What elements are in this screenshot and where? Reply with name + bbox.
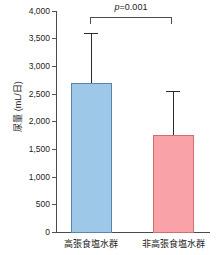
error-bar-stem-category-0 [91, 33, 93, 83]
x-axis-label-category-1: 非高張食塩水群 [128, 237, 218, 250]
p-value-number: =0.001 [120, 2, 148, 12]
y-axis-tick-labels: 4,000 3,500 3,000 2,500 2,000 1,500 1,00… [12, 0, 50, 255]
p-value-annotation: p=0.001 [90, 2, 172, 12]
y-axis-line [56, 11, 57, 233]
bar-category-0 [71, 83, 112, 233]
error-bar-cap-category-1 [166, 91, 180, 93]
y-tick-label-1000: 1,000 [16, 173, 50, 181]
y-tick-label-500: 500 [16, 200, 50, 208]
y-tick-label-2000: 2,000 [16, 117, 50, 125]
y-tick-label-0: 0 [16, 228, 50, 236]
bar-chart-figure: 尿量 (mL/日) 4,000 3,500 3,000 2,500 2,000 … [0, 0, 220, 255]
x-axis-label-category-0: 高張食塩水群 [51, 237, 131, 250]
y-tick-label-3500: 3,500 [16, 34, 50, 42]
error-bar-stem-category-1 [173, 91, 175, 135]
y-tick-label-3000: 3,000 [16, 62, 50, 70]
error-bar-cap-category-0 [84, 33, 98, 35]
y-tick-label-2500: 2,500 [16, 90, 50, 98]
bar-category-1 [153, 135, 194, 233]
significance-bracket [90, 17, 172, 24]
y-tick-label-4000: 4,000 [16, 7, 50, 15]
y-tick-label-1500: 1,500 [16, 145, 50, 153]
